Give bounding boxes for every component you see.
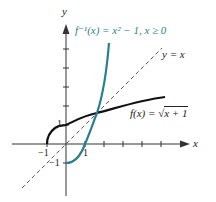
f-label: f(x) = √x + 1 xyxy=(130,108,188,119)
f-label-prefix: f(x) = xyxy=(130,107,158,119)
identity-label: y = x xyxy=(162,49,185,60)
x-axis-label: x xyxy=(193,138,198,149)
y-axis-label: y xyxy=(62,6,67,17)
y-axis-arrow-icon xyxy=(63,24,70,34)
f-inverse-curve xyxy=(66,43,109,163)
f-curve xyxy=(47,97,165,144)
f-inverse-label: f⁻¹(x) = x² − 1, x ≥ 0 xyxy=(75,25,166,36)
tick-label-x-1: 1 xyxy=(83,148,88,158)
tick-label-x-neg1: −1 xyxy=(38,148,49,158)
tick-label-y-neg1: −1 xyxy=(49,158,60,168)
tick-label-y-1: 1 xyxy=(57,119,62,129)
x-axis-arrow-icon xyxy=(180,141,190,148)
f-label-radicand: x + 1 xyxy=(164,106,187,119)
